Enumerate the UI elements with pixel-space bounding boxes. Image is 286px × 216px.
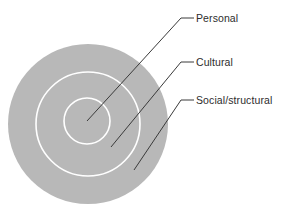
concentric-circles-figure: Personal Cultural Social/structural xyxy=(0,0,286,216)
outer-circle-social-structural xyxy=(8,44,168,204)
concentric-circles-graphic xyxy=(0,0,286,216)
label-cultural: Cultural xyxy=(196,56,233,68)
label-social-structural: Social/structural xyxy=(196,94,272,106)
label-personal: Personal xyxy=(196,12,238,24)
